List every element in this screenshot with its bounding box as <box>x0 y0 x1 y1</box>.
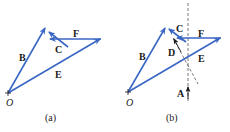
vector-b-b <box>128 28 165 92</box>
label-d-b: D <box>168 47 175 58</box>
origin-label-a: O <box>6 97 13 108</box>
caption-a: (a) <box>45 112 56 124</box>
label-e-a: E <box>55 69 62 80</box>
label-b-b: B <box>139 51 146 62</box>
panel-a: B C E F O (a) <box>5 28 101 124</box>
vector-diagram: B C E F O (a) B C D E F A O (b) <box>0 0 230 132</box>
vector-b-a <box>8 28 45 93</box>
label-b-a: B <box>19 52 26 63</box>
label-c-a: C <box>55 44 62 55</box>
label-a-b: A <box>177 88 185 99</box>
panel-b: B C D E F A O (b) <box>125 3 221 124</box>
label-e-b: E <box>198 53 205 64</box>
label-f-b: F <box>198 28 204 39</box>
vector-e-a <box>8 39 100 93</box>
caption-b: (b) <box>166 112 178 124</box>
label-f-a: F <box>73 28 79 39</box>
origin-label-b: O <box>126 97 133 108</box>
label-c-b: C <box>176 23 183 34</box>
